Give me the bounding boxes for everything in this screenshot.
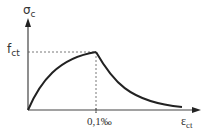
peak-strain-label: 0,1‰: [87, 116, 112, 127]
x-axis-label: εct: [181, 115, 193, 127]
y-axis-arrow-icon: [25, 18, 31, 27]
softening-curve: [96, 52, 182, 107]
fct-label: fct: [7, 43, 20, 55]
y-axis-label: σc: [23, 4, 36, 16]
x-axis-subscript: ct: [186, 120, 193, 130]
y-axis-symbol: σ: [23, 3, 31, 17]
fct-subscript: ct: [11, 48, 19, 58]
stress-strain-diagram: σc fct 0,1‰ εct: [0, 0, 212, 136]
x-axis-arrow-icon: [192, 107, 201, 113]
ascending-curve: [28, 52, 96, 110]
y-axis-subscript: c: [31, 9, 36, 19]
